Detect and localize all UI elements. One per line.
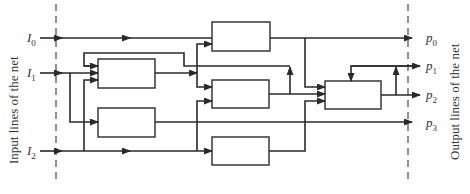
output-label-p0: p0 bbox=[425, 30, 438, 48]
output-label-p1: p1 bbox=[425, 58, 437, 76]
output-label-p2: p2 bbox=[425, 87, 437, 105]
block-center-bottom bbox=[212, 137, 269, 165]
block-center-top bbox=[212, 22, 270, 51]
output-label-p3: p3 bbox=[425, 115, 438, 133]
block-left-lower bbox=[98, 108, 155, 137]
wire-p0 bbox=[270, 38, 412, 87]
block-left-upper bbox=[98, 59, 155, 88]
logic-net-diagram: I0 I1 I2 p0 p1 p2 p3 Input lines of the … bbox=[0, 0, 470, 194]
wire-center-middle-out bbox=[269, 67, 325, 94]
input-caption: Input lines of the net bbox=[6, 56, 21, 164]
block-right bbox=[325, 81, 381, 109]
wire-center-bottom-out bbox=[269, 101, 325, 151]
output-caption: Output lines of the net bbox=[447, 43, 462, 160]
block-center-middle bbox=[212, 80, 269, 108]
input-label-i2: I2 bbox=[26, 143, 36, 161]
input-label-i1: I1 bbox=[26, 65, 36, 83]
input-label-i0: I0 bbox=[26, 30, 36, 48]
